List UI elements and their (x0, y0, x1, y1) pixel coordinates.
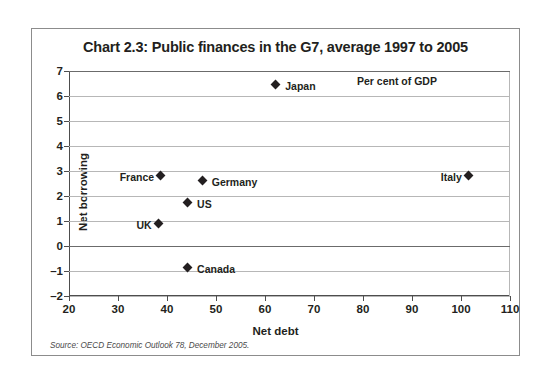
y-tick-mark (64, 71, 69, 72)
y-tick-label: 6 (57, 90, 63, 102)
x-tick-label: 90 (406, 303, 419, 315)
y-tick-label: 1 (57, 215, 63, 227)
x-tick-label: 50 (210, 303, 223, 315)
diamond-marker-icon (271, 80, 281, 90)
plot-right-edge (509, 71, 510, 296)
gridline (69, 246, 510, 247)
data-point-label: Japan (285, 80, 315, 92)
x-tick-mark (69, 296, 70, 301)
source-note: Source: OECD Economic Outlook 78, Decemb… (50, 341, 249, 350)
x-tick-mark (363, 296, 364, 301)
diamond-marker-icon (153, 218, 163, 228)
y-tick-mark (64, 121, 69, 122)
y-tick-mark (64, 196, 69, 197)
diamond-marker-icon (156, 171, 166, 181)
x-tick-mark (412, 296, 413, 301)
y-tick-label: 7 (57, 65, 63, 77)
gridline (69, 71, 510, 72)
y-tick-label: 0 (57, 240, 63, 252)
diamond-marker-icon (197, 176, 207, 186)
x-tick-mark (314, 296, 315, 301)
x-tick-mark (265, 296, 266, 301)
y-tick-mark (64, 221, 69, 222)
gridline (69, 271, 510, 272)
x-tick-mark (510, 296, 511, 301)
y-tick-label: –2 (50, 290, 63, 302)
x-tick-label: 30 (112, 303, 125, 315)
y-tick-label: 2 (57, 190, 63, 202)
x-tick-label: 40 (161, 303, 174, 315)
x-tick-label: 70 (308, 303, 321, 315)
gridline (69, 121, 510, 122)
gridline (69, 96, 510, 97)
y-tick-label: 3 (57, 165, 63, 177)
y-tick-mark (64, 171, 69, 172)
data-point-label: Germany (212, 176, 258, 188)
y-tick-mark (64, 146, 69, 147)
chart-title: Chart 2.3: Public finances in the G7, av… (32, 39, 519, 55)
x-tick-mark (461, 296, 462, 301)
data-point-label: US (197, 198, 212, 210)
data-point-label: France (120, 171, 154, 183)
plot-area: 76543210–1–2 2030405060708090100110 Japa… (69, 71, 510, 296)
y-tick-label: 4 (57, 140, 63, 152)
gridline (69, 221, 510, 222)
data-point-label: Italy (441, 171, 462, 183)
x-tick-label: 60 (259, 303, 272, 315)
y-tick-mark (64, 96, 69, 97)
x-tick-label: 110 (501, 303, 520, 315)
units-annotation: Per cent of GDP (357, 75, 437, 87)
y-tick-mark (64, 246, 69, 247)
data-point-label: Canada (197, 263, 235, 275)
y-tick-mark (64, 271, 69, 272)
x-tick-mark (216, 296, 217, 301)
gridline (69, 296, 510, 297)
gridline (69, 146, 510, 147)
x-axis-label: Net debt (32, 325, 519, 337)
y-axis-line (69, 71, 70, 296)
gridline (69, 196, 510, 197)
x-tick-mark (167, 296, 168, 301)
y-tick-label: 5 (57, 115, 63, 127)
diamond-marker-icon (463, 171, 473, 181)
x-tick-label: 100 (451, 303, 470, 315)
x-tick-mark (118, 296, 119, 301)
diamond-marker-icon (183, 197, 193, 207)
chart-figure: Chart 2.3: Public finances in the G7, av… (31, 28, 520, 356)
x-tick-label: 80 (357, 303, 370, 315)
x-tick-label: 20 (63, 303, 76, 315)
data-point-label: UK (136, 219, 151, 231)
y-tick-label: –1 (50, 265, 63, 277)
